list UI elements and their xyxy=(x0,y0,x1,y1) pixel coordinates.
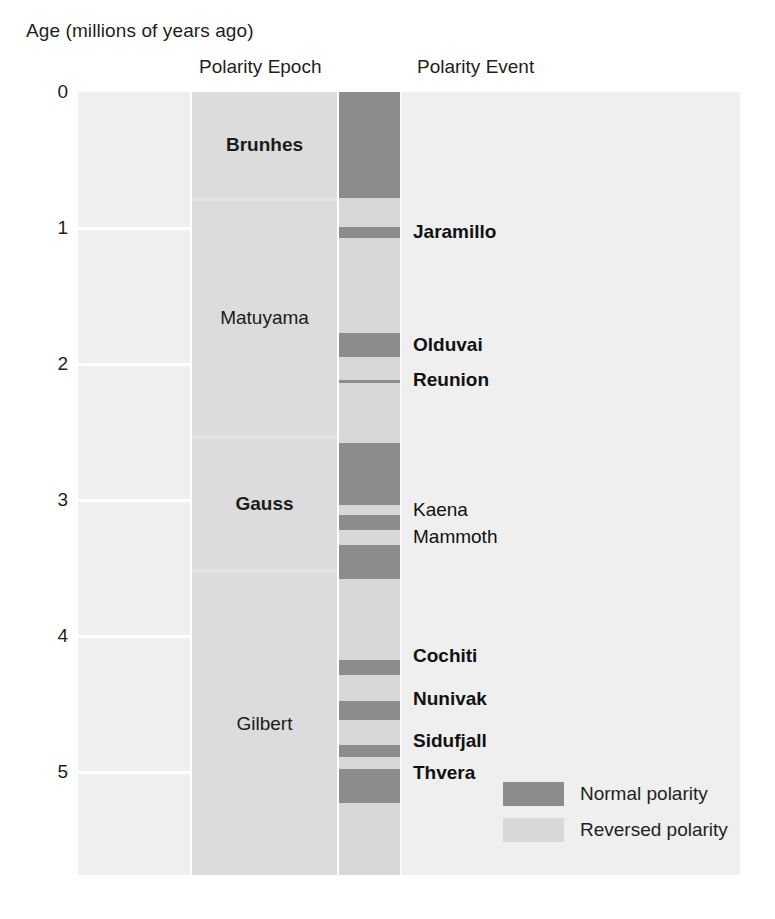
y-tick-label: 2 xyxy=(8,353,68,375)
event-label-cochiti: Cochiti xyxy=(413,645,477,667)
epoch-block-matuyama: Matuyama xyxy=(192,201,337,435)
column-title-polarity-event: Polarity Event xyxy=(417,56,534,78)
polarity-band-normal xyxy=(339,545,400,579)
column-title-polarity-epoch: Polarity Epoch xyxy=(199,56,322,78)
event-label-olduvai: Olduvai xyxy=(413,334,483,356)
epoch-block-gauss: Gauss xyxy=(192,439,337,570)
epoch-block-brunhes: Brunhes xyxy=(192,92,337,198)
epoch-label: Matuyama xyxy=(220,307,309,329)
event-label-thvera: Thvera xyxy=(413,762,475,784)
polarity-band-normal xyxy=(339,745,400,757)
legend: Normal polarityReversed polarity xyxy=(503,779,728,851)
y-tick-label: 3 xyxy=(8,489,68,511)
epoch-label: Brunhes xyxy=(226,134,303,156)
event-label-sidufjall: Sidufjall xyxy=(413,730,487,752)
legend-label: Reversed polarity xyxy=(580,819,728,841)
axis-title-age: Age (millions of years ago) xyxy=(26,20,254,42)
event-label-mammoth: Mammoth xyxy=(413,526,497,548)
y-tick-label: 1 xyxy=(8,217,68,239)
age-axis-panel xyxy=(78,92,190,875)
epoch-block-gilbert: Gilbert xyxy=(192,572,337,875)
event-label-kaena: Kaena xyxy=(413,499,468,521)
polarity-band-normal xyxy=(339,769,400,803)
epoch-label: Gauss xyxy=(235,493,293,515)
polarity-band-normal xyxy=(339,333,400,357)
polarity-band-normal xyxy=(339,380,400,383)
polarity-band-normal xyxy=(339,92,400,198)
epoch-label: Gilbert xyxy=(237,713,293,735)
polarity-band-normal xyxy=(339,515,400,530)
legend-swatch-normal xyxy=(503,782,564,806)
y-tick-label: 4 xyxy=(8,625,68,647)
polarity-event-panel xyxy=(401,92,740,875)
polarity-band-normal xyxy=(339,701,400,720)
polarity-band-column xyxy=(339,92,400,875)
legend-label: Normal polarity xyxy=(580,783,708,805)
legend-swatch-reversed xyxy=(503,818,564,842)
event-label-reunion: Reunion xyxy=(413,369,489,391)
polarity-timescale-figure: Age (millions of years ago) Polarity Epo… xyxy=(0,0,775,919)
legend-item-reversed: Reversed polarity xyxy=(503,815,728,845)
event-label-nunivak: Nunivak xyxy=(413,688,487,710)
y-tick-label: 0 xyxy=(8,81,68,103)
polarity-band-normal xyxy=(339,227,400,238)
y-tick-label: 5 xyxy=(8,761,68,783)
event-label-jaramillo: Jaramillo xyxy=(413,221,496,243)
polarity-band-normal xyxy=(339,660,400,675)
legend-item-normal: Normal polarity xyxy=(503,779,728,809)
polarity-band-normal xyxy=(339,443,400,506)
